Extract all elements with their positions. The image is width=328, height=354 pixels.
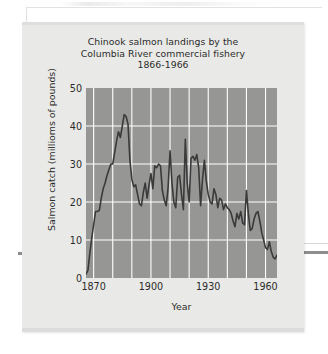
y-tick-label: 40	[56, 121, 82, 132]
x-axis-tick-labels: 1870190019301960	[86, 281, 277, 295]
figure-panel: Chinook salmon landings by the Columbia …	[22, 22, 304, 332]
plot-svg	[86, 88, 277, 278]
y-tick-label: 30	[56, 159, 82, 170]
page-margin-mark-right	[300, 251, 328, 254]
salmon-catch-line	[86, 115, 277, 275]
page-rule-right	[300, 243, 328, 244]
y-tick-label: 20	[56, 197, 82, 208]
y-axis-tick-labels: 01020304050	[54, 88, 82, 278]
x-tick-label: 1930	[196, 281, 220, 292]
x-axis-title: Year	[86, 301, 277, 312]
y-tick-label: 50	[56, 83, 82, 94]
horizontal-gridlines	[86, 126, 277, 240]
y-tick-label: 0	[56, 273, 82, 284]
y-tick-label: 10	[56, 235, 82, 246]
chart-area: Salmon catch (millioms of pounds) 010203…	[22, 22, 304, 332]
plot-area	[86, 88, 277, 278]
page-top-smudge	[60, 2, 288, 6]
x-tick-label: 1870	[81, 281, 105, 292]
x-tick-label: 1900	[139, 281, 163, 292]
page-rule-top	[26, 7, 322, 8]
x-tick-label: 1960	[253, 281, 277, 292]
